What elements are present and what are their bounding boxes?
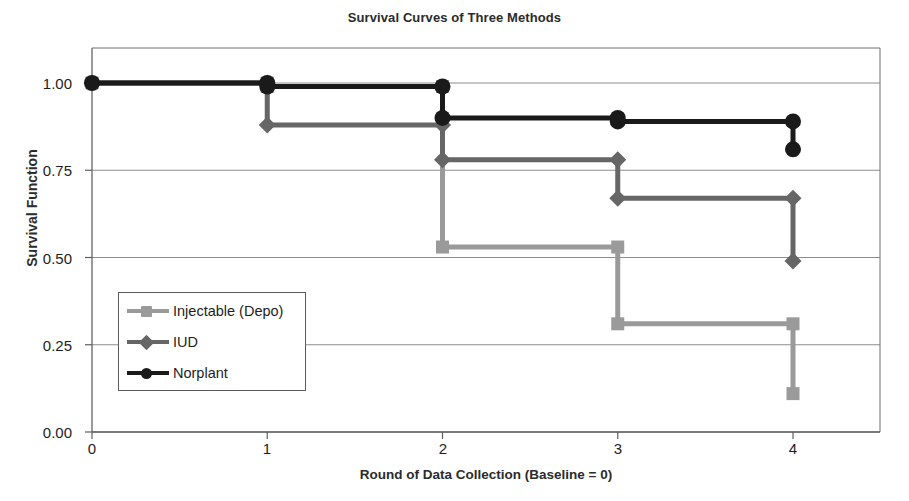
circle-marker-icon xyxy=(259,78,275,94)
square-marker-icon xyxy=(787,317,800,330)
legend-label-norplant: Norplant xyxy=(173,365,228,381)
circle-marker-icon xyxy=(127,366,169,380)
circle-marker-icon xyxy=(84,75,100,91)
square-marker-icon xyxy=(436,241,449,254)
square-marker-icon xyxy=(787,387,800,400)
circle-marker-icon xyxy=(785,113,801,129)
diamond-marker-icon xyxy=(609,190,626,207)
legend-item-injectable[interactable]: Injectable (Depo) xyxy=(127,299,283,323)
plot-area xyxy=(0,0,909,501)
circle-marker-icon xyxy=(435,78,451,94)
legend-label-injectable: Injectable (Depo) xyxy=(173,303,283,319)
circle-marker-icon xyxy=(785,141,801,157)
legend: Injectable (Depo) IUD Norplant xyxy=(118,292,306,391)
diamond-marker-icon xyxy=(434,151,451,168)
circle-marker-icon xyxy=(435,110,451,126)
legend-label-iud: IUD xyxy=(173,334,198,350)
diamond-marker-icon xyxy=(259,116,276,133)
square-marker-icon xyxy=(611,241,624,254)
diamond-marker-icon xyxy=(785,190,802,207)
diamond-marker-icon xyxy=(785,252,802,269)
legend-item-iud[interactable]: IUD xyxy=(127,330,198,354)
circle-marker-icon xyxy=(610,113,626,129)
diamond-marker-icon xyxy=(609,151,626,168)
chart-page: Survival Curves of Three Methods Surviva… xyxy=(0,0,909,501)
diamond-marker-icon xyxy=(127,335,169,349)
legend-item-norplant[interactable]: Norplant xyxy=(127,361,228,385)
square-marker-icon xyxy=(611,317,624,330)
square-marker-icon xyxy=(127,304,169,318)
